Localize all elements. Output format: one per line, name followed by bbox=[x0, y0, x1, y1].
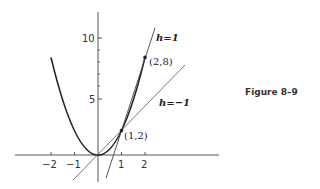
tick-label-x-neg2: −2 bbox=[42, 159, 57, 170]
label-point-1-2: (1,2) bbox=[124, 130, 148, 141]
label-h1: h=1 bbox=[156, 32, 179, 43]
point-2-8 bbox=[143, 56, 147, 60]
tick-label-x-neg1: −1 bbox=[66, 159, 81, 170]
tick-label-y-5: 5 bbox=[89, 94, 95, 105]
tick-label-y-10: 10 bbox=[82, 33, 95, 44]
secant-line-hm1 bbox=[73, 65, 185, 180]
label-point-2-8: (2,8) bbox=[149, 56, 173, 67]
point-1-2 bbox=[120, 129, 124, 133]
figure-caption: Figure 8–9 bbox=[245, 87, 298, 97]
tick-label-x-2: 2 bbox=[141, 159, 147, 170]
label-hm1: h=−1 bbox=[159, 97, 190, 108]
y-ticks bbox=[98, 38, 102, 99]
tick-label-x-1: 1 bbox=[118, 159, 124, 170]
